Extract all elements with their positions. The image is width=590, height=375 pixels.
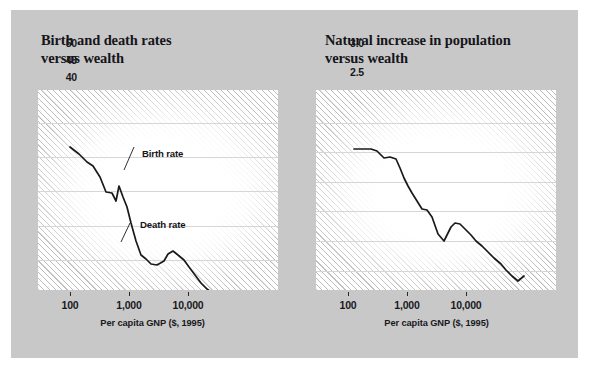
x-tick-10000: 10,000	[441, 299, 491, 311]
x-tickmark-10000	[188, 292, 189, 296]
y-tick-40: 40	[53, 71, 77, 83]
series-curves-natural-increase	[316, 90, 556, 290]
death-rate-leader-line	[121, 223, 130, 242]
x-tick-1000: 1,000	[104, 299, 154, 311]
x-tickmark-100	[348, 292, 349, 296]
plot-area-natural-increase	[316, 90, 556, 290]
x-tick-10000: 10,000	[163, 299, 213, 311]
x-tickmark-1000	[407, 292, 408, 296]
x-tickmark-10000	[466, 292, 467, 296]
x-axis-label-birth-death: Per capita GNP ($, 1995)	[11, 318, 294, 328]
chart-title-line1: Birth and death rates	[41, 32, 291, 50]
x-tickmark-100	[70, 292, 71, 296]
chart-title-line2: versus wealth	[325, 50, 575, 68]
series-label-birth-rate: Birth rate	[142, 148, 183, 159]
x-tick-100: 100	[323, 299, 373, 311]
annotation-leaders-birth-death	[38, 90, 278, 290]
birth-rate-leader-line	[124, 147, 134, 170]
panel-natural-increase: Natural increase in population versus we…	[295, 10, 578, 358]
natural-increase-line	[354, 149, 524, 281]
figure-container: Birth and death rates versus wealth Rate…	[11, 10, 578, 358]
series-label-death-rate: Death rate	[140, 219, 185, 230]
y-tick-45: 45	[53, 54, 77, 66]
x-tickmark-1000	[129, 292, 130, 296]
panel-birth-death: Birth and death rates versus wealth Rate…	[11, 10, 294, 358]
y-tick-2-5: 2.5	[333, 66, 364, 78]
x-axis-label-natural-increase: Per capita GNP ($, 1995)	[295, 318, 578, 328]
chart-title-birth-death: Birth and death rates versus wealth	[41, 32, 291, 67]
x-tick-1000: 1,000	[382, 299, 432, 311]
x-tick-100: 100	[45, 299, 95, 311]
y-tick-50: 50	[53, 37, 77, 49]
chart-title-line2: versus wealth	[41, 50, 291, 68]
y-tick-3-0: 3.0	[333, 37, 364, 49]
plot-area-birth-death	[38, 90, 278, 290]
